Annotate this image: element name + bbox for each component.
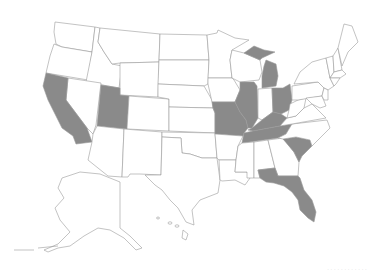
state-kansas[interactable] — [169, 107, 215, 133]
state-new-mexico[interactable] — [122, 129, 162, 177]
state-wyoming[interactable] — [120, 62, 159, 97]
state-colorado[interactable] — [127, 96, 169, 131]
state-maine[interactable] — [338, 24, 358, 66]
map-attribution: · · · · · · · · · · · · — [327, 266, 367, 272]
state-south-dakota[interactable] — [158, 60, 209, 86]
state-north-dakota[interactable] — [159, 34, 209, 60]
state-florida[interactable] — [258, 168, 316, 222]
us-map — [0, 0, 373, 274]
state-arizona[interactable] — [88, 126, 124, 177]
state-iowa[interactable] — [208, 78, 240, 102]
state-hawaii[interactable] — [157, 217, 189, 240]
state-alaska[interactable] — [44, 172, 142, 252]
